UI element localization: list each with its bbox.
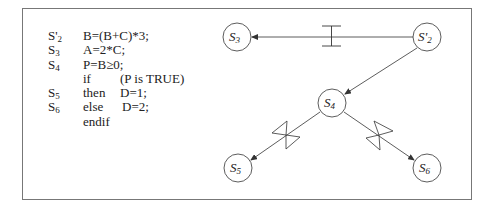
node-s6: S6 [413, 154, 441, 182]
dependency-graph: S3 S'2 S4 S5 S6 [0, 0, 495, 212]
node-s2prime: S'2 [413, 23, 441, 51]
node-s3: S3 [223, 23, 251, 51]
bow-tie-marker-icon [366, 121, 393, 150]
node-s4: S4 [318, 89, 346, 117]
edge-s4-to-s5 [251, 112, 320, 160]
i-beam-marker-icon [322, 26, 341, 46]
bow-tie-marker-icon [272, 121, 300, 149]
edge-s2prime-to-s4 [345, 48, 417, 94]
node-s5: S5 [224, 154, 252, 182]
